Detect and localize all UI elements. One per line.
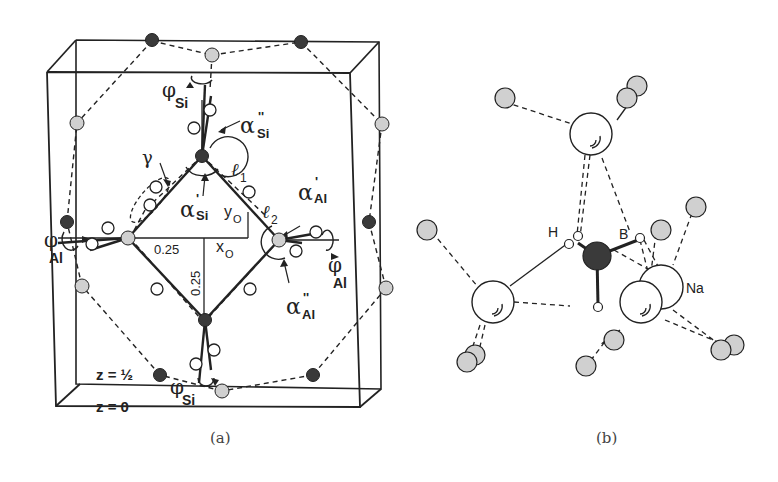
label-y: y xyxy=(224,203,232,220)
grey-atom xyxy=(379,281,393,295)
oxygen-atom xyxy=(86,238,98,250)
label-l1: ℓ xyxy=(231,159,239,180)
label-al-sub: Al xyxy=(49,250,63,266)
grey-atom xyxy=(686,197,706,217)
grey-atom xyxy=(205,48,219,62)
si-atom-top xyxy=(196,150,209,163)
dark-atom xyxy=(146,34,159,47)
label-na: Na xyxy=(686,280,704,296)
label-al-sub: Al xyxy=(314,191,327,206)
hydrogen-atom xyxy=(594,303,603,312)
label-dprime: '' xyxy=(303,290,309,305)
label-y-sub: O xyxy=(233,213,242,225)
label-l1-sub: 1 xyxy=(240,171,247,185)
label-l2-sub: 2 xyxy=(271,213,278,227)
label-si-sub: Si xyxy=(196,208,208,223)
arrow-heads xyxy=(82,82,339,386)
figure-canvas: φ Si α '' Si γ ℓ 1 α ' Si y O ℓ 2 α ' Al… xyxy=(0,0,778,482)
grey-atom xyxy=(617,88,637,108)
panel-a xyxy=(47,34,393,408)
dark-atoms xyxy=(61,34,376,382)
dark-atom xyxy=(307,369,320,382)
label-al-sub: Al xyxy=(333,275,347,291)
label-dprime: '' xyxy=(258,109,264,124)
dark-atom xyxy=(295,36,308,49)
oxygen-atom xyxy=(290,245,302,257)
label-si-sub: Si xyxy=(175,95,188,111)
label-z-zero: z = 0 xyxy=(96,398,129,415)
label-quarter-horizontal: 0.25 xyxy=(154,242,179,257)
grey-atom xyxy=(375,117,389,131)
grey-atom xyxy=(651,220,671,240)
label-alpha-dprime-al: α xyxy=(286,294,301,319)
oxygen-atom xyxy=(144,199,156,211)
oxygen-atom xyxy=(208,344,220,356)
na-atoms xyxy=(472,113,683,323)
label-prime: ' xyxy=(196,191,199,206)
oxygen-atom xyxy=(102,222,114,234)
label-alpha-dprime-si: α xyxy=(240,113,255,138)
oxygen-atom xyxy=(150,181,162,193)
si-atom-bottom xyxy=(199,314,212,327)
label-quarter-vertical: 0.25 xyxy=(188,271,203,296)
grey-atom xyxy=(417,220,437,240)
dark-atom xyxy=(363,216,376,229)
grey-atom xyxy=(75,279,89,293)
label-gamma: γ xyxy=(142,147,153,168)
label-phi-al-left: φ xyxy=(44,228,58,252)
label-phi-al-right: φ xyxy=(328,253,342,277)
grey-atom xyxy=(457,352,477,372)
label-x: x xyxy=(216,238,224,255)
grey-atoms xyxy=(70,48,393,398)
grey-atom xyxy=(604,330,624,350)
caption-a: (a) xyxy=(210,429,231,447)
na-atom xyxy=(570,113,612,155)
label-x-sub: O xyxy=(225,248,234,260)
label-al-sub: Al xyxy=(302,307,315,322)
caption-b: (b) xyxy=(596,429,617,447)
grey-atom xyxy=(215,384,229,398)
oxygen-atom xyxy=(310,226,322,238)
oxygen-atom xyxy=(151,283,163,295)
oxygen-atom xyxy=(244,283,256,295)
label-si-sub: Si xyxy=(182,392,195,408)
grey-atom xyxy=(711,340,731,360)
hydrogen-atom xyxy=(636,234,645,243)
label-l2: ℓ xyxy=(262,201,270,222)
label-z-half: z = ½ xyxy=(96,366,133,383)
label-si-sub: Si xyxy=(257,126,269,141)
hydrogen-atom xyxy=(565,240,574,249)
na-atom xyxy=(472,281,514,323)
label-b: B xyxy=(619,226,628,242)
oxygen-atom xyxy=(190,358,202,370)
dark-atom xyxy=(154,369,167,382)
hydrogen-atom xyxy=(574,232,583,241)
label-alpha-prime-si: α xyxy=(180,197,195,222)
al-atom-right xyxy=(272,233,286,247)
boron-atom xyxy=(583,242,611,270)
oxygen-atom xyxy=(204,104,216,116)
na-atom xyxy=(620,281,662,323)
grey-atom xyxy=(495,88,515,108)
dark-atom xyxy=(61,216,74,229)
label-h: H xyxy=(548,224,558,240)
oxygen-atom xyxy=(243,186,255,198)
al-atom-left xyxy=(121,231,135,245)
label-prime: ' xyxy=(315,174,318,189)
panel-b xyxy=(417,76,744,376)
label-alpha-prime-al: α xyxy=(298,180,313,205)
grey-atom xyxy=(576,356,596,376)
label-phi-si-top: φ xyxy=(162,78,176,102)
grey-atom xyxy=(70,116,84,130)
oxygen-atom xyxy=(188,122,200,134)
